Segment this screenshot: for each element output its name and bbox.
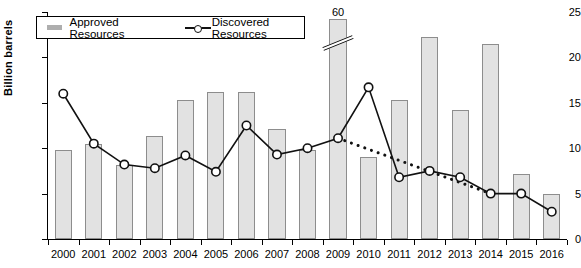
data-point-2009 — [334, 134, 342, 142]
discovered-resources-markers — [59, 83, 556, 216]
y-tick-mark — [42, 194, 47, 195]
data-point-2013 — [456, 173, 464, 181]
legend-line-marker-icon — [185, 23, 206, 33]
x-tick-mark — [170, 240, 171, 245]
data-point-2001 — [90, 139, 98, 147]
legend-item-discovered: Discovered Resources — [157, 16, 304, 40]
bar-value-label-2009: 60 — [323, 6, 353, 18]
y-tick-mark — [42, 57, 47, 58]
x-tick-mark — [414, 240, 415, 245]
chart-legend: Approved Resources Discovered Resources — [36, 16, 305, 39]
legend-label-discovered: Discovered Resources — [212, 16, 304, 40]
line-series-layer — [48, 12, 567, 239]
x-tick-mark — [79, 240, 80, 245]
x-tick-mark — [140, 240, 141, 245]
data-point-2012 — [425, 167, 433, 175]
data-point-2008 — [303, 144, 311, 152]
data-point-2004 — [181, 151, 189, 159]
plot-area — [48, 12, 567, 239]
x-tick-mark — [506, 240, 507, 245]
legend-label-approved: Approved Resources — [69, 16, 157, 40]
data-point-2016 — [548, 208, 556, 216]
x-tick-mark — [475, 240, 476, 245]
x-tick-mark — [323, 240, 324, 245]
x-tick-mark — [201, 240, 202, 245]
data-point-2007 — [273, 150, 281, 158]
chart-container: Billion barrels 0510152025 2000200120022… — [0, 0, 581, 268]
x-tick-mark — [384, 240, 385, 245]
data-point-2015 — [517, 189, 525, 197]
data-point-2002 — [120, 160, 128, 168]
x-tick-mark — [292, 240, 293, 245]
y-tick-mark — [42, 103, 47, 104]
x-tick-mark — [109, 240, 110, 245]
data-point-2000 — [59, 90, 67, 98]
data-point-2011 — [395, 173, 403, 181]
x-tick-mark — [231, 240, 232, 245]
x-tick-mark — [48, 240, 49, 245]
legend-item-approved: Approved Resources — [37, 16, 157, 40]
x-tick-mark — [262, 240, 263, 245]
data-point-2014 — [486, 189, 494, 197]
x-axis-line — [47, 239, 567, 240]
data-point-2006 — [242, 121, 250, 129]
legend-bar-swatch-icon — [47, 25, 62, 30]
x-tick-mark — [567, 240, 568, 245]
x-tick-mark — [445, 240, 446, 245]
trend-dotted-line — [338, 138, 491, 193]
data-point-2005 — [212, 168, 220, 176]
y-axis-title: Billion barrels — [2, 20, 14, 96]
data-point-2003 — [151, 164, 159, 172]
y-tick-mark — [42, 148, 47, 149]
y-tick-mark — [42, 12, 47, 13]
y-tick-mark — [42, 239, 47, 240]
x-tick-mark — [536, 240, 537, 245]
x-tick-mark — [353, 240, 354, 245]
x-tick-label: 2016 — [532, 248, 572, 260]
data-point-2010 — [364, 83, 372, 91]
